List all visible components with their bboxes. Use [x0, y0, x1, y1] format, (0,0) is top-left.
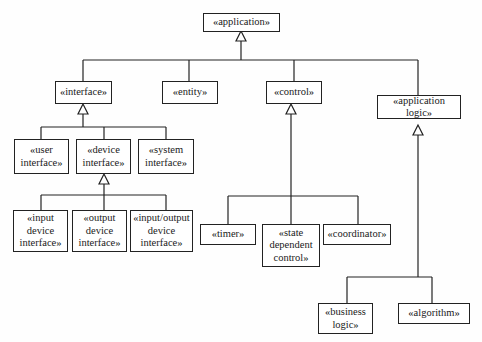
node-entity: «entity»	[162, 81, 218, 104]
node-device-interface: «device interface»	[76, 139, 131, 174]
node-business-logic: «business logic»	[318, 303, 373, 334]
node-coordinator: «coordinator»	[323, 224, 391, 245]
generalization-arrowhead	[99, 174, 109, 184]
node-user-interface: «user interface»	[14, 139, 69, 174]
node-system-interface: «system interface»	[138, 139, 194, 174]
stereotype-hierarchy-diagram: «application» «interface» «entity» «cont…	[0, 0, 482, 342]
node-state-dependent-control: «state dependent control»	[262, 224, 320, 267]
generalization-arrowhead	[286, 104, 296, 114]
node-algorithm: «algorithm»	[398, 303, 470, 324]
node-timer: «timer»	[200, 224, 256, 245]
node-interface: «interface»	[55, 81, 112, 104]
node-input-device-interface: «input device interface»	[13, 210, 68, 252]
node-output-device-interface: «output device interface»	[72, 210, 127, 252]
node-application-logic: «application logic»	[377, 95, 461, 119]
generalization-arrowhead	[413, 125, 423, 135]
node-control: «control»	[266, 81, 322, 104]
generalization-arrowhead	[78, 104, 88, 114]
generalization-arrowhead	[236, 31, 246, 41]
node-input-output-device-interface: «input/output device interface»	[130, 210, 193, 252]
node-application: «application»	[203, 13, 280, 32]
generalization-connectors	[0, 0, 482, 342]
